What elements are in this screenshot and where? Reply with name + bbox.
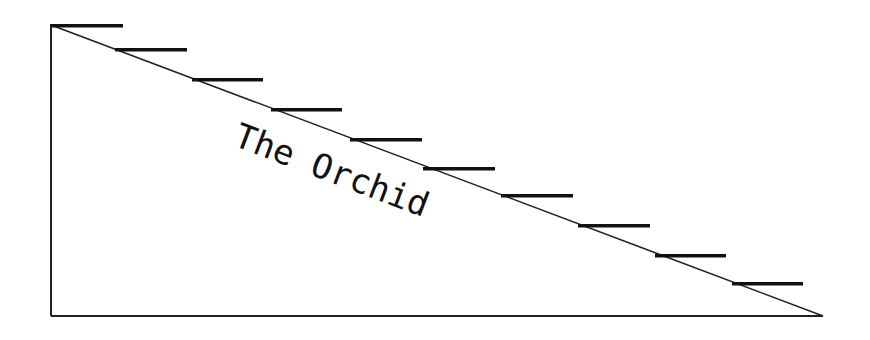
step-bar-1 bbox=[51, 24, 123, 28]
step-bar-4 bbox=[271, 108, 342, 112]
diagram-canvas: The Orchid bbox=[0, 0, 870, 340]
step-bar-3 bbox=[192, 78, 263, 82]
step-bar-5 bbox=[350, 138, 422, 142]
step-bar-8 bbox=[578, 224, 650, 228]
step-bar-9 bbox=[655, 254, 726, 258]
step-bar-6 bbox=[423, 167, 495, 171]
step-bar-2 bbox=[115, 48, 187, 52]
step-bar-10 bbox=[732, 282, 803, 286]
step-bar-7 bbox=[501, 194, 573, 198]
step-bars bbox=[51, 24, 803, 286]
